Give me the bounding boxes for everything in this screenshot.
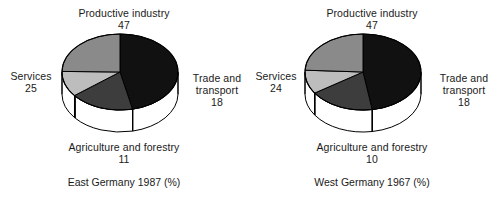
slice-label-text: Agriculture and forestry xyxy=(272,141,472,153)
slice-label-text-line1: Trade and xyxy=(186,72,248,84)
slice-label-text: Productive industry xyxy=(14,7,234,19)
slice-label-services-east: Services 25 xyxy=(2,70,60,94)
slice-value-text: 24 xyxy=(248,82,304,94)
slice-value-text: 18 xyxy=(432,96,496,108)
slice-value-text: 18 xyxy=(186,96,248,108)
chart-panel-east: Productive industry 47 Services 25 Trade… xyxy=(0,0,248,203)
slice-label-trade-and-transport-east: Trade and transport 18 xyxy=(186,72,248,108)
slice-label-productive-industry-east: Productive industry 47 xyxy=(14,7,234,31)
slice-label-text: Productive industry xyxy=(262,7,482,19)
slice-label-text: Agriculture and forestry xyxy=(24,141,224,153)
slice-value-text: 47 xyxy=(14,19,234,31)
chart-panel-west: Productive industry 47 Services 24 Trade… xyxy=(248,0,496,203)
slice-label-text: Services xyxy=(2,70,60,82)
pie-east-slices xyxy=(62,34,178,132)
slice-value-text: 11 xyxy=(24,153,224,165)
slice-value-text: 47 xyxy=(262,19,482,31)
slice-label-text-line1: Trade and xyxy=(432,72,496,84)
pie-chart-figure: Productive industry 47 Services 25 Trade… xyxy=(0,0,496,203)
slice-value-text: 25 xyxy=(2,82,60,94)
slice-label-agriculture-and-forestry-east: Agriculture and forestry 11 xyxy=(24,141,224,165)
slice-label-productive-industry-west: Productive industry 47 xyxy=(262,7,482,31)
slice-label-text: Services xyxy=(248,70,304,82)
pie-slice-services xyxy=(305,34,363,72)
slice-label-trade-and-transport-west: Trade and transport 18 xyxy=(432,72,496,108)
chart-caption-west: West Germany 1967 (%) xyxy=(252,176,492,188)
chart-caption-east: East Germany 1987 (%) xyxy=(4,176,244,188)
slice-label-text-line2: transport xyxy=(186,84,248,96)
slice-label-services-west: Services 24 xyxy=(248,70,304,94)
slice-value-text: 10 xyxy=(272,153,472,165)
slice-label-agriculture-and-forestry-west: Agriculture and forestry 10 xyxy=(272,141,472,165)
pie-west-slices xyxy=(305,34,421,132)
pie-slice-services xyxy=(62,34,120,72)
slice-label-text-line2: transport xyxy=(432,84,496,96)
